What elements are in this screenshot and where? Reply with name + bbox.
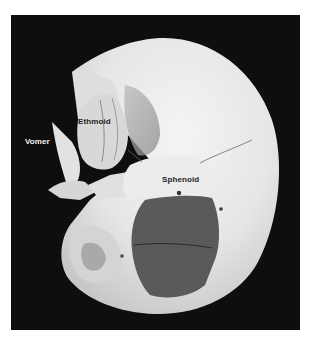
label-sphenoid: Sphenoid [162,175,199,184]
label-vomer: Vomer [25,137,50,146]
label-ethmoid: Ethmoid [78,117,111,126]
skull-photograph: Vomer Ethmoid Sphenoid [11,15,300,330]
maxillary-fragments [48,180,96,200]
foramen-dot [219,207,223,211]
foramen-dot [177,191,181,195]
skull-illustration [11,15,300,330]
vomer-bone [52,122,80,188]
foramen-dot [120,254,124,258]
